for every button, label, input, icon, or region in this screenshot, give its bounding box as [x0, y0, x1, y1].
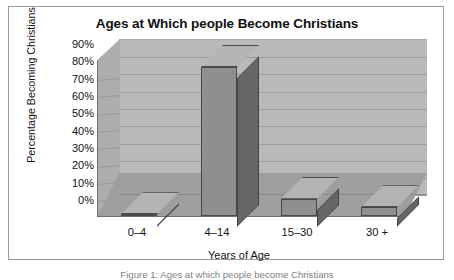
y-axis-tick-labels: 90% 80% 70% 60% 50% 40% 30% 20% 10% 0% [56, 39, 94, 215]
x-tick-label: 0–4 [102, 226, 172, 238]
bar-top-face [361, 185, 419, 207]
bar-4-14[interactable] [201, 45, 259, 216]
y-tick-label: 40% [56, 126, 94, 137]
y-tick-label: 70% [56, 74, 94, 85]
x-axis-title: Years of Age [69, 249, 409, 261]
gridline [120, 92, 427, 93]
y-tick-label: 20% [56, 160, 94, 171]
gridline [97, 130, 120, 133]
bar-top-face [201, 45, 259, 67]
y-axis-title: Percentage Becoming Christians [25, 5, 37, 165]
gridline [97, 113, 120, 116]
bar-15-30[interactable] [281, 177, 339, 216]
gridline [97, 147, 120, 150]
bar-top-face [281, 177, 339, 199]
y-tick-label: 0% [56, 195, 94, 206]
bar-front-face [281, 199, 317, 216]
bar-front-face [361, 207, 397, 216]
y-tick-label: 10% [56, 178, 94, 189]
x-tick-label: 4–14 [182, 226, 252, 238]
chart-y-axis-line [97, 61, 98, 217]
y-tick-label: 50% [56, 108, 94, 119]
bar-front-face [121, 214, 157, 216]
gridline [120, 161, 427, 162]
chart-back-wall [119, 39, 427, 195]
y-tick-label: 90% [56, 39, 94, 50]
x-tick-label: 30 + [342, 226, 412, 238]
gridline [97, 95, 120, 98]
bar-top-face [121, 192, 179, 214]
y-tick-label: 60% [56, 91, 94, 102]
bar-front-face [201, 67, 237, 216]
gridline [120, 126, 427, 127]
bar-30-plus[interactable] [361, 185, 419, 216]
x-axis-tick-labels: 0–4 4–14 15–30 30 + [97, 226, 437, 242]
figure-caption: Figure 1: Ages at which people become Ch… [0, 269, 454, 280]
bar-0-4[interactable] [121, 192, 179, 216]
gridline [120, 74, 427, 75]
chart-baseline [97, 216, 405, 217]
gridline [97, 78, 120, 81]
y-tick-label: 30% [56, 143, 94, 154]
gridline [120, 144, 427, 145]
bar-side-face [237, 56, 259, 227]
chart-title: Ages at Which people Become Christians [9, 16, 445, 31]
plot-area [97, 39, 427, 222]
figure-frame: Ages at Which people Become Christians P… [8, 6, 444, 260]
y-tick-label: 80% [56, 56, 94, 67]
gridline [97, 165, 120, 168]
gridline [120, 57, 427, 58]
x-tick-label: 15–30 [262, 226, 332, 238]
gridline [120, 109, 427, 110]
